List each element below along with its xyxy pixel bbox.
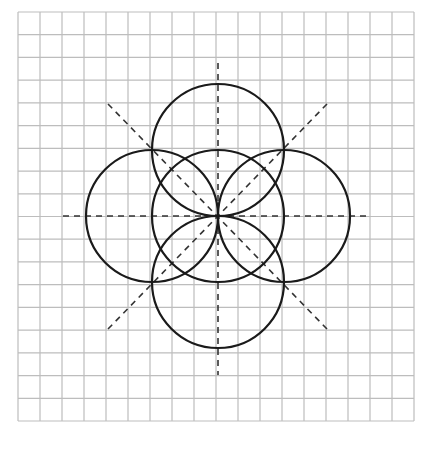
circle-pattern-diagram (0, 0, 432, 455)
